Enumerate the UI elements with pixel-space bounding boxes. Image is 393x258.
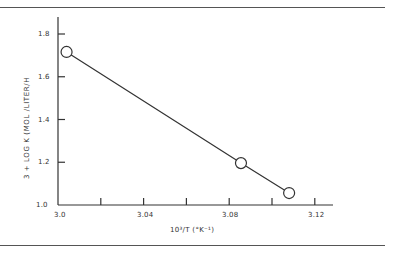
x-tick-label: 3.04 bbox=[137, 211, 153, 219]
y-tick-label: 1.2 bbox=[38, 158, 50, 166]
y-tick-label: 1.6 bbox=[38, 73, 50, 81]
data-point-marker bbox=[235, 158, 246, 169]
plot-area bbox=[0, 0, 393, 258]
x-tick-label: 3.12 bbox=[308, 211, 324, 219]
data-line bbox=[67, 52, 290, 193]
data-point-marker bbox=[284, 188, 295, 199]
y-axis-label: 3 + LOG K (MOL /LITER/H bbox=[23, 73, 31, 183]
x-axis-label: 10³/T (°K⁻¹) bbox=[170, 226, 214, 234]
x-tick-label: 3.08 bbox=[222, 211, 238, 219]
y-tick-label: 1.8 bbox=[38, 30, 50, 38]
x-tick-label: 3.0 bbox=[54, 211, 66, 219]
y-tick-label: 1.4 bbox=[38, 116, 50, 124]
y-tick-label: 1.0 bbox=[36, 201, 48, 209]
data-point-marker bbox=[61, 46, 72, 57]
